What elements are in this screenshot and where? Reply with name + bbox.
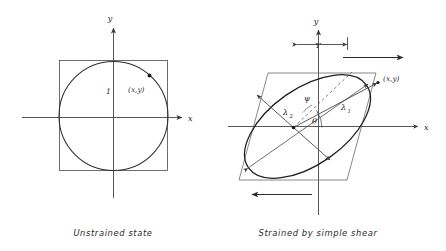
panel-strained: y x Y λ 1 λ 2 θ ψ (x,y) Strained by simp… bbox=[227, 17, 429, 238]
x-axis-label-unstrained: x bbox=[188, 114, 193, 123]
radius-label: 1 bbox=[106, 87, 111, 96]
theta-label: θ bbox=[312, 117, 317, 126]
lambda1-symbol: λ bbox=[340, 103, 346, 112]
point-marker-strained bbox=[376, 81, 379, 84]
lambda2-label: λ 2 bbox=[282, 108, 294, 119]
psi-dashed-line bbox=[294, 72, 353, 128]
lambda2-symbol: λ bbox=[282, 108, 288, 117]
origin-marker-strained bbox=[292, 126, 296, 130]
strain-ellipse-figure: y x 1 (x,y) Unstrained state bbox=[0, 0, 446, 251]
point-marker-unstrained bbox=[148, 74, 152, 78]
psi-label: ψ bbox=[304, 94, 311, 103]
caption-unstrained: Unstrained state bbox=[73, 228, 152, 238]
caption-strained: Strained by simple shear bbox=[259, 228, 378, 238]
x-axis-label-strained: x bbox=[424, 123, 429, 132]
lambda2-subscript: 2 bbox=[289, 113, 294, 119]
lambda1-label: λ 1 bbox=[340, 103, 351, 114]
point-label-unstrained: (x,y) bbox=[128, 85, 145, 94]
lambda1-subscript: 1 bbox=[348, 108, 351, 114]
y-axis-label-unstrained: y bbox=[107, 14, 113, 23]
y-axis-label-strained: y bbox=[313, 17, 319, 26]
panel-unstrained: y x 1 (x,y) Unstrained state bbox=[22, 14, 193, 238]
point-label-strained: (x,y) bbox=[383, 74, 400, 83]
lambda2-arrow-downright bbox=[294, 128, 331, 161]
shear-strain-label: Y bbox=[315, 41, 321, 50]
